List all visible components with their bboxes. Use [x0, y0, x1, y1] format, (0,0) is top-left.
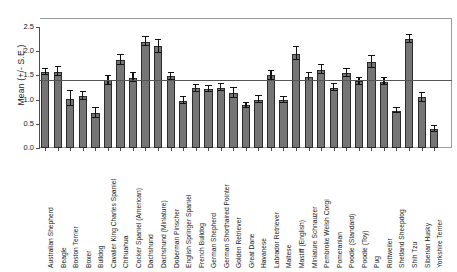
x-axis-tick-label: Havanese [261, 238, 268, 268]
x-axis-tick-mark [359, 148, 360, 151]
x-axis-tick-label: Shetland Sheepdog [399, 209, 406, 268]
x-axis-tick-label: Poodle (Standard) [349, 214, 356, 268]
x-axis-tick-mark [133, 148, 134, 151]
x-axis-tick-mark [171, 148, 172, 151]
x-axis-tick-mark [158, 148, 159, 151]
y-axis-tick-mark [36, 148, 40, 149]
x-axis-tick-mark [108, 148, 109, 151]
x-axis-tick-label: Cocker Spaniel (American) [136, 188, 143, 268]
x-axis-tick-mark [221, 148, 222, 151]
x-axis-tick-label: English Springer Spaniel [186, 195, 193, 268]
x-axis-tick-mark [45, 148, 46, 151]
x-axis-tick-label: German Shepherd [211, 213, 218, 268]
x-axis-tick-mark [196, 148, 197, 151]
x-axis-tick-mark [58, 148, 59, 151]
x-axis-tick-mark [120, 148, 121, 151]
x-axis-tick-label: Pug [374, 256, 381, 268]
x-axis-tick-labels: Australian ShepherdBeagleBoston TerrierB… [0, 0, 457, 272]
x-axis-tick-mark [246, 148, 247, 151]
x-axis-tick-label: Beagle [61, 247, 68, 268]
y-axis-tick-mark [36, 27, 40, 28]
x-axis-tick-label: Australian Shepherd [48, 207, 55, 268]
x-axis-tick-mark [258, 148, 259, 151]
x-axis-tick-label: Miniature Schnauzer [312, 207, 319, 268]
x-axis-tick-label: Doberman Pinscher [174, 209, 181, 268]
x-axis-tick-label: Pomeranian [337, 232, 344, 268]
y-axis-tick-mark [36, 75, 40, 76]
x-axis-tick-mark [70, 148, 71, 151]
x-axis-tick-mark [283, 148, 284, 151]
x-axis-tick-mark [422, 148, 423, 151]
x-axis-tick-mark [145, 148, 146, 151]
x-axis-tick-label: Golden Retriever [236, 217, 243, 268]
x-axis-tick-label: Bulldog [98, 246, 105, 268]
x-axis-tick-mark [271, 148, 272, 151]
y-axis-tick-mark [36, 51, 40, 52]
x-axis-tick-label: Rottweiler [387, 238, 394, 268]
x-axis-tick-label: Pembroke Welsh Corgi [324, 199, 331, 268]
y-axis-tick-mark [36, 124, 40, 125]
x-axis-tick-mark [95, 148, 96, 151]
x-axis-tick-mark [309, 148, 310, 151]
x-axis-tick-label: Cavalier King Charles Spaniel [111, 179, 118, 268]
x-axis-tick-mark [83, 148, 84, 151]
x-axis-tick-label: Dachshund (Miniature) [161, 200, 168, 268]
x-axis-tick-mark [208, 148, 209, 151]
x-axis-tick-mark [384, 148, 385, 151]
y-axis-tick-mark [36, 100, 40, 101]
x-axis-tick-label: Labrador Retriever [274, 212, 281, 268]
x-axis-tick-mark [296, 148, 297, 151]
x-axis-tick-label: Mastiff (English) [299, 220, 306, 268]
x-axis-tick-label: Maltese [286, 245, 293, 268]
x-axis-tick-label: French Bulldog [199, 223, 206, 268]
bar-chart: Mean (+/- S.E.) 0.00.51.01.52.02.5 Austr… [0, 0, 457, 272]
x-axis-tick-label: Great Dane [249, 233, 256, 268]
x-axis-tick-label: Siberian Husky [425, 223, 432, 268]
x-axis-tick-label: Boxer [86, 251, 93, 268]
x-axis-tick-label: Boston Terrier [73, 226, 80, 268]
x-axis-tick-label: Dachshund [148, 234, 155, 268]
x-axis-tick-label: German Shorthaired Pointer [224, 184, 231, 268]
x-axis-tick-mark [371, 148, 372, 151]
x-axis-tick-mark [233, 148, 234, 151]
x-axis-tick-mark [409, 148, 410, 151]
x-axis-tick-mark [434, 148, 435, 151]
x-axis-tick-mark [396, 148, 397, 151]
x-axis-tick-label: Yorkshire Terrier [437, 220, 444, 269]
x-axis-tick-mark [334, 148, 335, 151]
x-axis-tick-label: Chihuahua [123, 236, 130, 268]
x-axis-tick-mark [346, 148, 347, 151]
x-axis-tick-label: Poodle (Toy) [362, 230, 369, 268]
x-axis-tick-label: Shih Tzu [412, 242, 419, 268]
x-axis-tick-mark [321, 148, 322, 151]
x-axis-tick-mark [183, 148, 184, 151]
